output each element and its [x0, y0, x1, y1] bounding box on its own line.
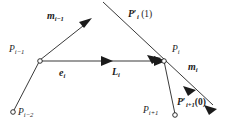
node-marker-p-i-minus-2 — [11, 110, 16, 115]
label-tangent-start-sub: i+1 — [186, 101, 195, 108]
label-point-p-i-plus-1-base: P — [143, 105, 149, 115]
node-marker-p-i — [162, 59, 167, 64]
label-tangent-end-prime: ′ — [134, 8, 137, 19]
label-director-m-current-base: m — [188, 61, 196, 72]
label-edge-L: Li — [112, 67, 120, 77]
node-marker-p-i-plus-1 — [173, 113, 178, 118]
director-ray-prev — [40, 18, 92, 60]
label-point-p-i-plus-1-sub: i+1 — [149, 109, 159, 116]
label-point-p-i-sub: i — [178, 48, 180, 55]
arrowhead-e-mid — [101, 56, 113, 66]
label-point-p-i-minus-1-base: P — [9, 44, 15, 54]
arrowhead-m-prev — [79, 18, 92, 28]
label-point-p-i-minus-1-sub: i−1 — [15, 48, 25, 55]
label-director-m-current: mi — [188, 62, 198, 72]
node-marker-p-i-minus-1 — [38, 59, 43, 64]
label-tangent-start: P′i+1(0) — [177, 97, 206, 108]
label-point-p-i: Pi — [172, 45, 180, 55]
label-tangent-start-arg: (0) — [195, 97, 206, 107]
label-point-p-i-minus-2-sub: i−2 — [24, 111, 34, 118]
label-tangent-start-prime: ′ — [183, 96, 186, 107]
ray-m-prev-line — [40, 22, 88, 60]
segment-current-to-next — [164, 61, 175, 114]
label-edge-e-sub: i — [63, 72, 65, 79]
tangent-line — [103, 2, 213, 105]
label-tangent-end-arg: (1) — [141, 9, 152, 19]
label-edge-e: ei — [59, 68, 65, 78]
label-point-p-i-minus-2: Pi−2 — [18, 108, 33, 118]
label-edge-L-sub: i — [118, 71, 120, 78]
label-director-m-prev-sub: i−1 — [55, 15, 64, 22]
label-director-m-current-sub: i — [196, 66, 198, 73]
label-director-m-prev-base: m — [47, 10, 55, 21]
label-point-p-i-plus-1: Pi+1 — [143, 106, 158, 116]
label-point-p-i-minus-1: Pi−1 — [9, 45, 24, 55]
segment-prev2-to-prev — [13, 60, 40, 112]
label-director-m-prev: mi−1 — [47, 11, 64, 21]
label-point-p-i-base: P — [172, 44, 178, 54]
label-tangent-end-sub: i — [137, 13, 139, 20]
label-point-p-i-minus-2-base: P — [18, 107, 24, 117]
figure-canvas: mi−1 P′i (1) Pi−1 Pi ei Li mi Pi−2 Pi+1 … — [0, 0, 229, 125]
label-tangent-end: P′i (1) — [128, 9, 152, 20]
